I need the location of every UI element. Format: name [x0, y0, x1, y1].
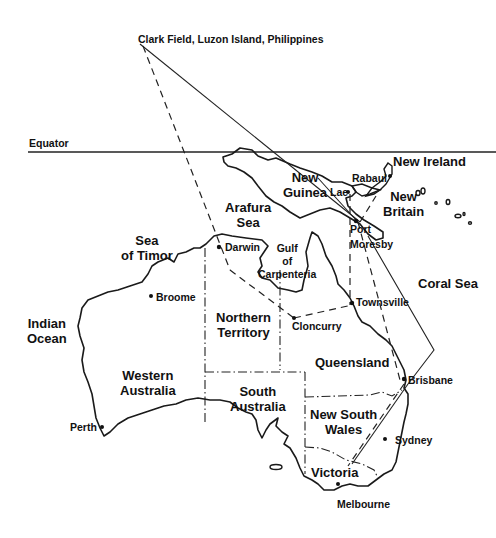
kangaroo-island: [270, 465, 282, 470]
cloncurry-label: Cloncurry: [292, 320, 342, 332]
indian-ocean-label: Indian Ocean: [27, 317, 67, 347]
townsville-dot: [350, 301, 354, 305]
south-australia-label: South Australia: [230, 385, 286, 415]
perth-label: Perth: [70, 421, 97, 433]
new-south-wales-label: New South Wales: [310, 408, 377, 438]
queensland-label: Queensland: [315, 356, 389, 371]
rabaul-label: Rabaul: [352, 172, 387, 184]
arafura-sea-label: Arafura Sea: [225, 201, 271, 231]
melbourne-label: Melbourne: [337, 498, 390, 510]
new-guinea-label: New Guinea: [283, 171, 327, 201]
solomon-islands: [416, 188, 472, 224]
western-australia-label: Western Australia: [120, 369, 176, 399]
coral-sea-label: Coral Sea: [418, 277, 478, 292]
melbourne-dot: [336, 482, 340, 486]
perth-dot: [100, 425, 104, 429]
broome-label: Broome: [156, 291, 196, 303]
darwin-label: Darwin: [225, 241, 260, 253]
equator-label: Equator: [29, 137, 69, 149]
new-ireland-label: New Ireland: [393, 155, 466, 170]
brisbane-dot: [402, 377, 406, 381]
new-britain-label: New Britain: [383, 190, 424, 220]
sydney-label: Sydney: [395, 434, 432, 446]
origin-label: Clark Field, Luzon Island, Philippines: [138, 33, 324, 45]
port-moresby-label: Port Moresby: [350, 222, 393, 251]
northern-territory-label: Northern Territory: [216, 311, 271, 341]
rabaul-dot: [388, 174, 392, 178]
lae-label: Lae: [330, 186, 348, 198]
townsville-label: Townsville: [356, 296, 409, 308]
darwin-dot: [217, 245, 221, 249]
sydney-dot: [383, 437, 387, 441]
victoria-label: Victoria: [311, 466, 358, 481]
brisbane-label: Brisbane: [408, 374, 453, 386]
sea-of-timor-label: Sea of Timor: [121, 234, 173, 264]
map-canvas: [0, 0, 496, 538]
gulf-of-carpenteria-label: Gulf of Carpenteria: [258, 242, 316, 281]
broome-dot: [149, 294, 153, 298]
